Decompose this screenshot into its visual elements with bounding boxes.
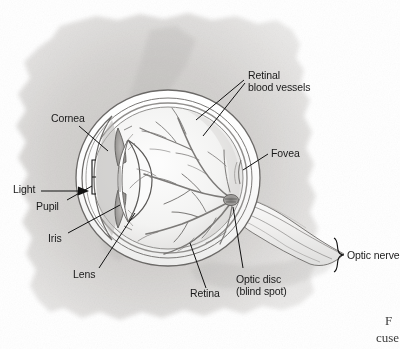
label-retinal-blood-vessels-line2: blood vessels bbox=[248, 82, 310, 94]
caption-line2: cuse bbox=[376, 330, 399, 345]
label-iris: Iris bbox=[48, 233, 62, 245]
label-pupil: Pupil bbox=[36, 201, 59, 213]
label-optic-disc-line2: (blind spot) bbox=[236, 286, 287, 298]
figure-page: Cornea Light Pupil Iris Lens Retinal blo… bbox=[0, 0, 400, 349]
label-retinal-blood-vessels-line1: Retinal bbox=[248, 70, 280, 82]
label-optic-nerve: Optic nerve bbox=[347, 250, 400, 262]
label-optic-disc-line1: Optic disc bbox=[236, 274, 281, 286]
label-lens: Lens bbox=[73, 269, 95, 281]
optic-disc bbox=[224, 195, 239, 206]
label-retina: Retina bbox=[190, 288, 220, 300]
label-light: Light bbox=[13, 184, 35, 196]
label-cornea: Cornea bbox=[51, 113, 85, 125]
label-fovea: Fovea bbox=[271, 148, 300, 160]
caption-line1: F bbox=[385, 313, 392, 328]
